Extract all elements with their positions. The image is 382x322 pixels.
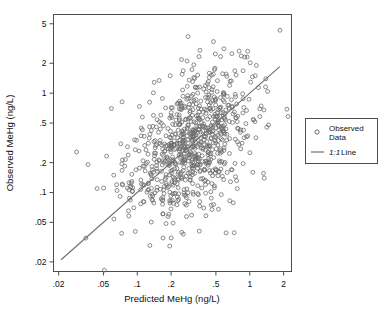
y-tick-label: 1	[42, 88, 47, 98]
y-axis-title: Observed MeHg (ng/L)	[4, 95, 15, 192]
legend-label-observed-line2: Data	[329, 133, 346, 142]
y-tick-label: 5	[42, 19, 47, 29]
legend-label-line-rest: Line	[341, 148, 357, 157]
x-tick-label: .02	[53, 279, 65, 289]
x-tick-label: .1	[134, 279, 141, 289]
y-tick-label: 2	[42, 58, 47, 68]
scatter-plot-figure: .02.05.1.2.5125 .02.05.1.2.512 Predicted…	[0, 0, 382, 322]
legend-label-line-em: 1:1	[329, 148, 340, 157]
y-tick-label: .1	[39, 187, 46, 197]
x-tick-label: .5	[212, 279, 219, 289]
x-tick-label: .2	[168, 279, 175, 289]
y-tick-label: .2	[39, 158, 46, 168]
y-tick-label: .02	[35, 257, 47, 267]
x-tick-label: 2	[281, 279, 286, 289]
x-axis-title: Predicted MeHg (ng/L)	[124, 293, 220, 304]
y-tick-label: .5	[39, 118, 46, 128]
plot-canvas: .02.05.1.2.5125 .02.05.1.2.512 Predicted…	[0, 0, 382, 322]
y-tick-label: .05	[35, 217, 47, 227]
x-tick-label: .05	[97, 279, 109, 289]
legend[interactable]: Observed Data 1:1 Line	[306, 119, 378, 164]
x-tick-label: 1	[247, 279, 252, 289]
legend-label-observed-line1: Observed	[329, 124, 364, 133]
